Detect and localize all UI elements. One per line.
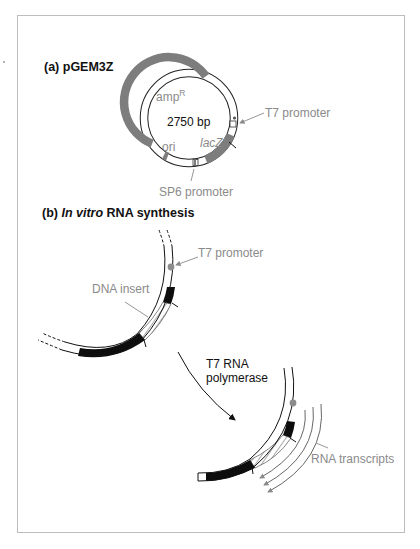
t7-promoter-label-a: T7 promoter xyxy=(265,106,330,120)
upper-arc-dashed-left-outer xyxy=(38,340,62,350)
t7-promoter-label-b: T7 promoter xyxy=(198,246,263,260)
upper-t7-promoter-dot xyxy=(168,264,175,271)
dna-insert-label: DNA insert xyxy=(92,282,150,296)
figure-canvas: (a) pGEM3Z ampR 2750 bp ori lacZ' T7 pro… xyxy=(0,0,420,549)
t7-promoter-leader-a xyxy=(240,113,264,123)
upper-arc-outer-line xyxy=(62,246,173,356)
ampr-label: ampR xyxy=(156,88,185,104)
rna-transcripts-leader xyxy=(316,443,328,448)
t7-promoter-dot xyxy=(233,116,236,119)
upper-arc-dashed-left-inner xyxy=(42,333,65,342)
lacz-label: lacZ' xyxy=(200,136,226,150)
sp6-promoter-label: SP6 promoter xyxy=(159,185,233,199)
upper-arc-tick-1 xyxy=(172,303,178,307)
dna-insert-leader xyxy=(125,302,148,317)
upper-arc-band xyxy=(62,246,173,356)
lower-arc-tick-1 xyxy=(290,438,296,442)
t7-promoter-leader-b xyxy=(176,257,198,265)
t7-promoter-box xyxy=(230,121,236,127)
lower-t7-promoter-dot xyxy=(290,400,297,407)
sp6-promoter-leader xyxy=(191,169,194,181)
ori-marker xyxy=(164,155,168,157)
plasmid-size: 2750 bp xyxy=(167,115,211,129)
rna-transcripts-label: RNA transcripts xyxy=(311,452,394,466)
panel-a-heading: (a) pGEM3Z xyxy=(44,60,114,74)
upper-arc-dashed-top-outer xyxy=(167,230,172,246)
upper-arc-dashed-top-inner xyxy=(159,230,164,246)
upper-arc-tick-2 xyxy=(144,340,146,347)
polymerase-label-line1: T7 RNA xyxy=(206,357,249,371)
ori-label: ori xyxy=(162,140,175,154)
plasmid-map: ampR 2750 bp ori lacZ' T7 promoter SP6 p… xyxy=(124,57,330,199)
polymerase-label-line2: polymerase xyxy=(206,371,268,385)
panel-b-heading: (b) In vitro RNA synthesis xyxy=(42,206,194,220)
